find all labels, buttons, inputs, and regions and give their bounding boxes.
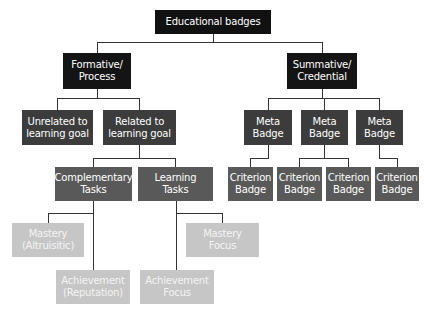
node-meta-badge-1: Meta Badge [244,110,292,145]
connector [250,158,251,167]
node-achievement-reputation: Achievement (Reputation) [56,270,130,304]
node-criterion-badge-2: Criterion Badge [277,167,322,201]
connector [322,42,323,53]
connector [397,158,398,167]
connector [379,158,398,159]
connector [139,98,140,110]
node-summative-credential: Summative/ Credential [287,53,357,89]
connector [324,98,325,110]
connector [57,98,58,110]
connector [57,98,140,99]
node-mastery-altruisitic: Mastery (Altruisitic) [12,223,84,257]
connector [97,89,98,98]
connector [379,145,380,158]
node-complementary-tasks: Complementary Tasks [55,167,132,201]
node-unrelated-to-learning-goal: Unrelated to learning goal [22,110,93,145]
node-educational-badges: Educational badges [155,10,271,34]
node-criterion-badge-3: Criterion Badge [326,167,371,201]
node-criterion-badge-1: Criterion Badge [228,167,273,201]
node-formative-process: Formative/ Process [63,53,131,89]
connector [97,42,323,43]
connector [268,98,269,110]
connector [250,158,269,159]
connector [48,213,94,214]
connector [348,158,349,167]
connector [93,158,94,167]
connector [93,201,94,270]
connector [97,42,98,53]
node-related-to-learning-goal: Related to learning goal [103,110,176,145]
connector [176,201,177,270]
connector [139,145,140,158]
connector [268,145,269,158]
connector [299,158,300,167]
connector [176,213,223,214]
connector [93,158,176,159]
connector [299,158,349,159]
connector [324,145,325,158]
node-meta-badge-2: Meta Badge [301,110,348,145]
node-achievement-focus: Achievement Focus [140,270,214,304]
connector [379,98,380,110]
connector [222,213,223,223]
connector [213,34,214,42]
node-criterion-badge-4: Criterion Badge [375,167,419,201]
node-meta-badge-3: Meta Badge [356,110,403,145]
connector [48,213,49,223]
connector [322,89,323,98]
connector [175,158,176,167]
node-mastery-focus: Mastery Focus [186,223,259,257]
node-learning-tasks: Learning Tasks [138,167,213,201]
